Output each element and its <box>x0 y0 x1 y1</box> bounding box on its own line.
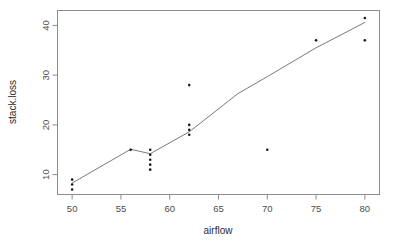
data-point <box>71 183 74 186</box>
x-axis-ticks <box>72 195 365 200</box>
data-point <box>149 153 152 156</box>
data-point <box>71 178 74 181</box>
data-point <box>149 148 152 151</box>
data-point <box>266 148 269 151</box>
y-tick-label: 40 <box>40 20 51 31</box>
y-axis-tick-labels: 10203040 <box>40 20 51 180</box>
y-axis-ticks <box>53 25 58 174</box>
data-point <box>188 84 191 87</box>
y-tick-label: 30 <box>40 70 51 81</box>
x-axis-title: airflow <box>204 225 234 236</box>
y-axis-title: stack.loss <box>7 80 18 124</box>
data-point <box>149 168 152 171</box>
x-tick-label: 60 <box>164 203 175 214</box>
scatter-plot-figure: 50556065707580 10203040 airflow stack.lo… <box>0 0 395 242</box>
chart-canvas: 50556065707580 10203040 airflow stack.lo… <box>0 0 395 242</box>
x-axis-tick-labels: 50556065707580 <box>67 203 370 214</box>
fitted-line-series <box>72 22 365 183</box>
data-point <box>149 158 152 161</box>
data-point <box>71 188 74 191</box>
x-tick-label: 65 <box>213 203 224 214</box>
plot-frame <box>58 11 380 195</box>
data-point <box>188 124 191 127</box>
data-point <box>188 129 191 132</box>
data-point <box>364 39 367 42</box>
y-tick-label: 20 <box>40 120 51 131</box>
data-point <box>149 163 152 166</box>
x-tick-label: 75 <box>311 203 322 214</box>
x-tick-label: 80 <box>360 203 371 214</box>
x-tick-label: 50 <box>67 203 78 214</box>
data-point <box>129 148 132 151</box>
data-point <box>315 39 318 42</box>
scatter-points-group <box>71 17 366 191</box>
y-tick-label: 10 <box>40 169 51 180</box>
data-point <box>188 134 191 137</box>
x-tick-label: 70 <box>262 203 273 214</box>
data-point <box>364 17 367 20</box>
x-tick-label: 55 <box>116 203 127 214</box>
